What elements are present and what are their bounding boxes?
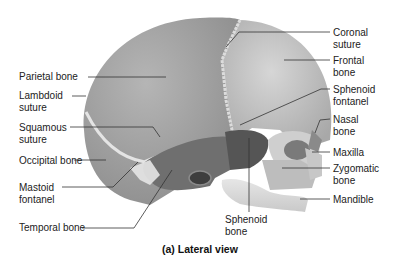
label-nasal-bone-line2: bone bbox=[333, 126, 355, 138]
label-temporal-bone: Temporal bone bbox=[19, 222, 85, 234]
label-squamous-suture-line1: Squamous bbox=[19, 122, 67, 134]
label-squamous-suture-line2: suture bbox=[19, 134, 47, 146]
label-zygomatic-bone-line2: bone bbox=[333, 175, 355, 187]
label-lambdoid-suture-line1: Lambdoid bbox=[19, 90, 63, 102]
label-coronal-suture-line2: suture bbox=[333, 39, 361, 51]
label-sphenoid-fontanel-line1: Sphenoid bbox=[333, 84, 375, 96]
figure-caption: (a) Lateral view bbox=[162, 243, 238, 255]
label-nasal-bone-line1: Nasal bbox=[333, 114, 359, 126]
label-mastoid-fontanel-line2: fontanel bbox=[19, 194, 55, 206]
label-maxilla: Maxilla bbox=[333, 147, 364, 159]
label-lambdoid-suture-line2: suture bbox=[19, 102, 47, 114]
sphenoid-bone-shape bbox=[225, 130, 268, 170]
label-zygomatic-bone-line1: Zygomatic bbox=[333, 163, 379, 175]
label-sphenoid-bone-line2: bone bbox=[225, 226, 247, 238]
label-mastoid-fontanel-line1: Mastoid bbox=[19, 182, 54, 194]
label-parietal-bone: Parietal bone bbox=[19, 71, 78, 83]
label-sphenoid-fontanel-line2: fontanel bbox=[333, 96, 369, 108]
label-coronal-suture-line1: Coronal bbox=[333, 27, 368, 39]
label-sphenoid-bone-line1: Sphenoid bbox=[225, 214, 267, 226]
label-occipital-bone: Occipital bone bbox=[19, 155, 82, 167]
label-frontal-bone-line2: bone bbox=[333, 67, 355, 79]
label-mandible: Mandible bbox=[333, 194, 374, 206]
label-frontal-bone-line1: Frontal bbox=[333, 55, 364, 67]
